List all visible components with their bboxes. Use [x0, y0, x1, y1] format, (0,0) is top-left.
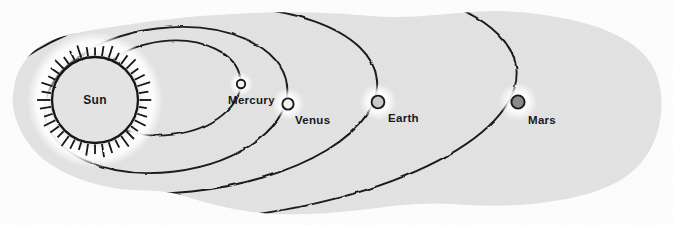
planet-label-mars: Mars — [528, 114, 556, 126]
sun-label: Sun — [83, 93, 107, 107]
planet-label-mercury: Mercury — [228, 94, 275, 106]
solar-system-diagram: Sun MercuryVenusEarthMars — [0, 0, 673, 232]
planet-dot-mercury — [237, 80, 245, 88]
planet-dot-venus — [282, 98, 293, 109]
sun-ray — [139, 107, 147, 108]
planet-label-earth: Earth — [388, 112, 419, 124]
solar-system-canvas: Sun MercuryVenusEarthMars — [0, 0, 673, 232]
planet-dot-earth — [372, 96, 385, 109]
planet-label-venus: Venus — [295, 114, 330, 126]
planet-dot-mars — [511, 95, 524, 108]
